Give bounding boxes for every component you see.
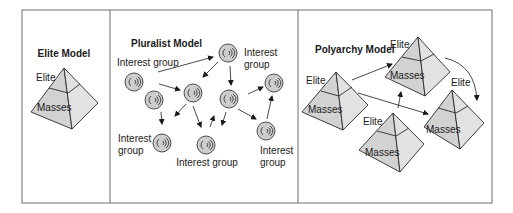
interest-group-circle [125, 73, 143, 91]
interest-group-label: group [260, 157, 286, 168]
pluralist-model-panel: Pluralist Model Interest group Inte [117, 38, 294, 168]
elite-label: Elite [306, 75, 326, 86]
polyarchy-model-title: Polyarchy Model [315, 44, 395, 55]
elite-label: Elite [36, 72, 56, 83]
interest-group-label: Interest [118, 133, 152, 144]
masses-label: Masses [426, 124, 460, 135]
interest-group-circle [257, 122, 275, 140]
interest-group-circle [145, 91, 163, 109]
elite-label: Elite [451, 77, 471, 88]
elite-label: Elite [363, 116, 383, 127]
interest-group-label: Interest group [117, 57, 179, 68]
interest-group-label: group [244, 59, 270, 70]
masses-label: Masses [37, 102, 71, 113]
models-diagram: Elite Model Elite Masses Pluralist Model [0, 0, 513, 213]
interest-group-label: Interest group [176, 157, 238, 168]
masses-label: Masses [365, 147, 399, 158]
polyarchy-model-panel: Polyarchy Model Elite Masses Elite Masse… [302, 37, 484, 172]
pluralist-model-title: Pluralist Model [131, 38, 202, 49]
interest-group-circle [153, 134, 171, 152]
polyarchy-pyramid [424, 90, 484, 149]
interest-group-circle [219, 44, 237, 62]
elite-model-panel: Elite Model Elite Masses [31, 48, 98, 129]
masses-label: Masses [390, 70, 424, 81]
interest-group-circle [197, 136, 215, 154]
elite-label: Elite [390, 39, 410, 50]
interest-group-label: Interest [260, 145, 294, 156]
interest-group-circle [265, 74, 283, 92]
interest-group-circle [220, 90, 238, 108]
interest-group-label: group [118, 145, 144, 156]
elite-model-title: Elite Model [38, 48, 91, 59]
masses-label: Masses [308, 104, 342, 115]
interest-group-circle [184, 84, 202, 102]
interest-group-label: Interest [244, 47, 278, 58]
